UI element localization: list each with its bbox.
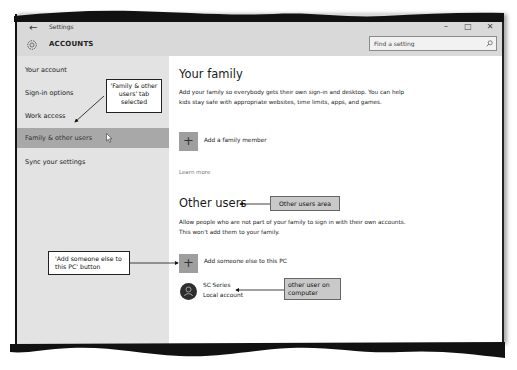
add-family-member-label[interactable]: Add a family member <box>204 137 267 143</box>
window-controls: – □ ✕ <box>442 22 494 31</box>
other-users-heading: Other users <box>179 196 246 210</box>
your-family-heading: Your family <box>179 67 243 81</box>
section-title: ACCOUNTS <box>49 40 94 48</box>
user-account-type: Local account <box>203 292 243 298</box>
user-avatar[interactable] <box>180 283 197 300</box>
search-box[interactable] <box>369 36 497 51</box>
screenshot-stage: ← Settings – □ ✕ ACCOUNTS <box>0 0 517 370</box>
settings-window: ← Settings – □ ✕ ACCOUNTS <box>15 14 504 344</box>
sidebar-item-label: Family & other users <box>25 134 92 142</box>
plus-icon: + <box>183 133 194 148</box>
sidebar-item-label: Your account <box>25 66 67 74</box>
minimize-button[interactable]: – <box>442 22 450 31</box>
maximize-button[interactable]: □ <box>464 22 472 31</box>
back-arrow-icon[interactable]: ← <box>29 22 37 33</box>
sidebar-item-your-account[interactable]: Your account <box>17 60 169 80</box>
sidebar-item-label: Sign-in options <box>25 89 73 97</box>
app-title: Settings <box>49 23 74 30</box>
close-button[interactable]: ✕ <box>486 22 494 31</box>
gear-icon <box>26 39 38 51</box>
add-someone-else-button[interactable]: + <box>179 254 198 273</box>
other-users-description: Allow people who are not part of your fa… <box>179 218 409 237</box>
person-icon <box>180 283 197 300</box>
callout-other-users-area: Other users area <box>270 196 340 211</box>
add-family-member-button[interactable]: + <box>179 132 198 151</box>
callout-add-someone-button: 'Add someone else to this PC' button <box>48 251 130 275</box>
learn-more-link[interactable]: Learn more <box>179 169 210 175</box>
user-name[interactable]: SC Series <box>203 282 230 288</box>
torn-edge-top <box>14 8 504 22</box>
sidebar-item-family-other-users[interactable]: Family & other users <box>17 128 169 148</box>
sidebar-item-label: Work access <box>25 112 65 120</box>
mouse-pointer-icon <box>106 133 113 143</box>
torn-edge-bottom <box>10 338 505 362</box>
plus-icon: + <box>183 255 194 270</box>
search-icon[interactable] <box>486 40 493 47</box>
add-someone-else-label[interactable]: Add someone else to this PC <box>204 258 287 264</box>
callout-other-user: other user on computer <box>284 278 341 300</box>
search-input[interactable] <box>370 37 496 50</box>
sidebar-item-label: Sync your settings <box>25 158 85 166</box>
callout-tab-selected: 'Family & other users' tab selected <box>106 79 162 113</box>
sidebar-item-sync-settings[interactable]: Sync your settings <box>17 152 169 172</box>
your-family-description: Add your family so everybody gets their … <box>179 88 409 107</box>
